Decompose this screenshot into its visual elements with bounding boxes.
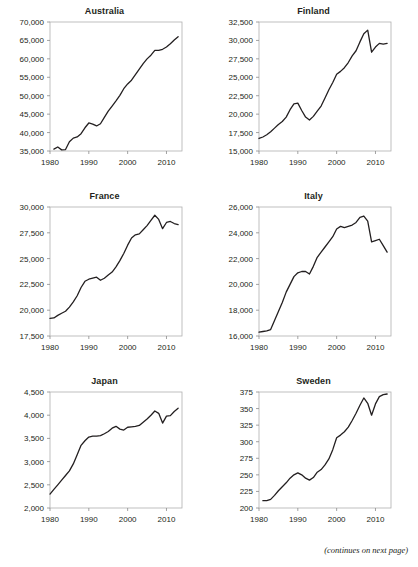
chart-svg-japan: 2,0002,5003,0003,5004,0004,5001980199020… [0,370,209,542]
y-axis-tick-label: 20,000 [229,280,254,289]
y-axis-tick-label: 20,000 [20,306,45,315]
x-axis-tick-label: 1990 [80,343,98,352]
chart-svg-australia: 35,00040,00045,00050,00055,00060,00065,0… [0,0,209,185]
y-axis-tick-label: 25,000 [229,73,254,82]
x-axis-tick-label: 2010 [367,343,385,352]
x-axis-tick-label: 2000 [328,515,346,524]
y-axis-tick-label: 55,000 [20,73,45,82]
x-axis-tick-label: 2000 [328,158,346,167]
chart-svg-france: 17,50020,00022,50025,00027,50030,0001980… [0,185,209,370]
y-axis-tick-label: 250 [240,471,254,480]
chart-panel-italy: Italy 16,00018,00020,00022,00024,00026,0… [209,185,418,370]
y-axis-tick-label: 50,000 [20,92,45,101]
y-axis-tick-label: 2,500 [24,481,45,490]
y-axis-tick-label: 24,000 [229,229,254,238]
chart-panel-finland: Finland 15,00017,50020,00022,50025,00027… [209,0,418,185]
x-axis-tick-label: 1980 [41,343,59,352]
y-axis-tick-label: 30,000 [229,36,254,45]
x-axis-tick-label: 1990 [80,515,98,524]
x-axis-tick-label: 2010 [367,515,385,524]
x-axis-tick-label: 2000 [119,515,137,524]
y-axis-tick-label: 45,000 [20,110,45,119]
y-axis-tick-label: 325 [240,421,254,430]
y-axis-tick-label: 200 [240,504,254,513]
y-axis-tick-label: 3,000 [24,458,45,467]
chart-panel-australia: Australia 35,00040,00045,00050,00055,000… [0,0,209,185]
x-axis-tick-label: 1980 [250,158,268,167]
y-axis-tick-label: 375 [240,388,254,397]
x-axis-tick-label: 2000 [119,158,137,167]
y-axis-tick-label: 225 [240,487,254,496]
continues-footnote: (continues on next page) [324,545,408,555]
chart-svg-italy: 16,00018,00020,00022,00024,00026,0001980… [209,185,418,370]
y-axis-tick-label: 30,000 [20,203,45,212]
x-axis-tick-label: 1980 [41,158,59,167]
x-axis-tick-label: 2010 [158,343,176,352]
y-axis-tick-label: 275 [240,454,254,463]
chart-panel-france: France 17,50020,00022,50025,00027,50030,… [0,185,209,370]
chart-panel-sweden: Sweden 200225250275300325350375198019902… [209,370,418,542]
y-axis-tick-label: 20,000 [229,110,254,119]
x-axis-tick-label: 1980 [250,343,268,352]
x-axis-tick-label: 1980 [41,515,59,524]
y-axis-tick-label: 15,000 [229,147,254,156]
y-axis-tick-label: 65,000 [20,36,45,45]
y-axis-tick-label: 27,500 [20,229,45,238]
y-axis-tick-label: 22,500 [229,92,254,101]
x-axis-tick-label: 1990 [80,158,98,167]
y-axis-tick-label: 300 [240,438,254,447]
x-axis-tick-label: 1990 [289,515,307,524]
chart-panel-japan: Japan 2,0002,5003,0003,5004,0004,5001980… [0,370,209,542]
y-axis-tick-label: 22,500 [20,280,45,289]
x-axis-tick-label: 1980 [250,515,268,524]
y-axis-tick-label: 22,000 [229,255,254,264]
y-axis-tick-label: 35,000 [20,147,45,156]
chart-grid: Australia 35,00040,00045,00050,00055,000… [0,0,418,542]
y-axis-tick-label: 27,500 [229,55,254,64]
y-axis-tick-label: 4,000 [24,411,45,420]
x-axis-tick-label: 2010 [367,158,385,167]
chart-svg-sweden: 2002252502753003253503751980199020002010 [209,370,418,542]
y-axis-tick-label: 40,000 [20,129,45,138]
y-axis-tick-label: 18,000 [229,306,254,315]
y-axis-tick-label: 4,500 [24,388,45,397]
x-axis-tick-label: 1990 [289,343,307,352]
y-axis-tick-label: 70,000 [20,18,45,27]
x-axis-tick-label: 2000 [119,343,137,352]
x-axis-tick-label: 2010 [158,515,176,524]
y-axis-tick-label: 16,000 [229,332,254,341]
y-axis-tick-label: 60,000 [20,55,45,64]
y-axis-tick-label: 350 [240,405,254,414]
x-axis-tick-label: 2010 [158,158,176,167]
x-axis-tick-label: 2000 [328,343,346,352]
y-axis-tick-label: 17,500 [229,129,254,138]
y-axis-tick-label: 3,500 [24,434,45,443]
chart-svg-finland: 15,00017,50020,00022,50025,00027,50030,0… [209,0,418,185]
y-axis-tick-label: 17,500 [20,332,45,341]
y-axis-tick-label: 2,000 [24,504,45,513]
y-axis-tick-label: 25,000 [20,255,45,264]
chart-page: Australia 35,00040,00045,00050,00055,000… [0,0,418,567]
y-axis-tick-label: 32,500 [229,18,254,27]
y-axis-tick-label: 26,000 [229,203,254,212]
x-axis-tick-label: 1990 [289,158,307,167]
